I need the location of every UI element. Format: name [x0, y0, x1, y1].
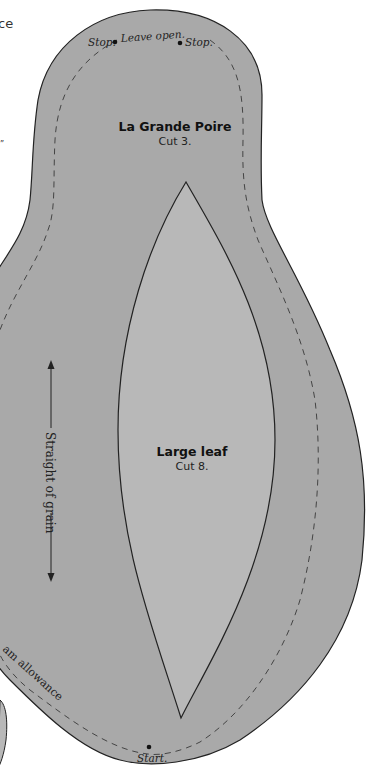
- adjacent-pattern-piece: [0, 700, 7, 768]
- grain-label: Straight of grain: [43, 432, 57, 534]
- stop-label-left: Stop.: [88, 36, 116, 48]
- pattern-title: La Grande Poire: [119, 119, 232, 134]
- leaf-title: Large leaf: [157, 444, 229, 459]
- stop-dot-right: [178, 41, 183, 46]
- start-label: Start.: [137, 752, 167, 764]
- start-dot: [147, 745, 152, 750]
- pattern-cut-count: Cut 3.: [159, 135, 192, 148]
- stop-label-right: Stop.: [185, 36, 213, 48]
- leaf-cut-count: Cut 8.: [176, 460, 209, 473]
- pattern-drawing: Straight of grain La Grande Poire Cut 3.…: [0, 0, 369, 782]
